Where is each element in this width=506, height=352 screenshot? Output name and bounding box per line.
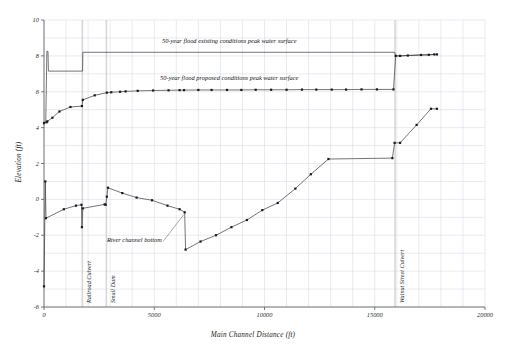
river-channel-bottom-label: River channel bottom <box>107 236 162 243</box>
existing-conditions-label: 50-year flood existing conditions peak w… <box>162 37 297 44</box>
grid-lines <box>44 20 485 307</box>
y-tick-6: 6 <box>19 88 39 95</box>
annotation-leader-line <box>163 215 184 242</box>
structure-label-railroad-culvert: Railroad Culvert <box>85 261 92 303</box>
y-tick-0: -6 <box>19 303 39 310</box>
x-tick-4: 20000 <box>465 311 505 318</box>
y-tick-5: 4 <box>19 124 39 131</box>
y-tick-7: 8 <box>19 52 39 59</box>
y-tick-2: -2 <box>19 231 39 238</box>
proposed-conditions-label: 50-year flood proposed conditions peak w… <box>160 74 298 81</box>
y-tick-4: 2 <box>19 160 39 167</box>
x-axis-title: Main Channel Distance (ft) <box>0 331 506 339</box>
x-tick-2: 10000 <box>245 311 285 318</box>
x-tick-0: 0 <box>24 311 64 318</box>
y-tick-3: 0 <box>19 195 39 202</box>
y-tick-1: -4 <box>19 267 39 274</box>
structure-label-small-dam: Small Dam <box>109 275 116 303</box>
series-0 <box>44 51 437 122</box>
series-2 <box>43 108 438 288</box>
chart-canvas: Main Channel Distance (ft) Elevation (ft… <box>0 0 506 352</box>
x-tick-3: 15000 <box>355 311 395 318</box>
series-1 <box>43 53 438 124</box>
y-tick-8: 10 <box>19 16 39 23</box>
axis-lines <box>41 20 485 310</box>
chart-plot-svg <box>0 0 506 352</box>
x-tick-1: 5000 <box>134 311 174 318</box>
structure-label-walnut-street-culvert: Walnut Street Culvert <box>398 250 405 303</box>
